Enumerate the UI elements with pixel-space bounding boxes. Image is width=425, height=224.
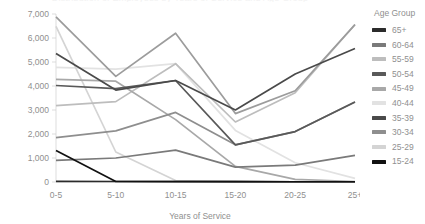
chart-canvas: 01,0002,0003,0004,0005,0006,0007,000 0-5… — [0, 0, 360, 224]
x-axis: 0-55-1010-1515-2020-2525+ — [50, 182, 360, 200]
y-tick-label: 5,000 — [28, 57, 50, 67]
line-chart: Distribution of Employees by Years of Se… — [0, 0, 425, 224]
legend-swatch-icon — [372, 130, 386, 134]
y-tick-label: 1,000 — [28, 153, 50, 163]
legend-item-65plus[interactable]: 65+ — [372, 23, 425, 38]
legend-item-label: 25-29 — [392, 143, 414, 152]
series-line-20-24 — [56, 17, 355, 114]
legend-item-50-54[interactable]: 50-54 — [372, 67, 425, 82]
legend-swatch-icon — [372, 145, 386, 149]
legend-item-label: 65+ — [392, 26, 406, 35]
series-lines — [56, 17, 355, 182]
x-tick-label: 20-25 — [284, 190, 306, 200]
legend-swatch-icon — [372, 57, 386, 61]
legend-item-45-49[interactable]: 45-49 — [372, 81, 425, 96]
x-tick-label: 10-15 — [165, 190, 187, 200]
y-tick-label: 7,000 — [28, 9, 50, 19]
legend-item-25-29[interactable]: 25-29 — [372, 140, 425, 155]
series-line-50-54 — [56, 80, 355, 144]
legend-item-label: 30-34 — [392, 128, 414, 137]
legend-swatch-icon — [372, 43, 386, 47]
y-axis: 01,0002,0003,0004,0005,0006,0007,000 — [28, 9, 56, 187]
legend-title: Age Group — [374, 8, 425, 18]
legend-item-label: 45-49 — [392, 84, 414, 93]
legend-item-label: 50-54 — [392, 70, 414, 79]
legend-item-15-24[interactable]: 15-24 — [372, 154, 425, 169]
x-axis-title: Years of Service — [169, 211, 231, 221]
legend-item-label: 40-44 — [392, 99, 414, 108]
x-tick-label: 25+ — [348, 190, 360, 200]
series-line-35-39 — [56, 49, 355, 110]
legend-swatch-icon — [372, 160, 386, 164]
legend-swatch-icon — [372, 101, 386, 105]
legend-swatch-icon — [372, 87, 386, 91]
legend-swatch-icon — [372, 28, 386, 32]
plot-area: 01,0002,0003,0004,0005,0006,0007,000 0-5… — [0, 0, 360, 224]
legend-swatch-icon — [372, 116, 386, 120]
x-tick-label: 0-5 — [50, 190, 63, 200]
x-tick-label: 5-10 — [107, 190, 124, 200]
legend-item-label: 55-59 — [392, 55, 414, 64]
y-tick-label: 6,000 — [28, 33, 50, 43]
legend-item-40-44[interactable]: 40-44 — [372, 96, 425, 111]
y-tick-label: 2,000 — [28, 129, 50, 139]
legend-item-label: 35-39 — [392, 114, 414, 123]
legend-item-60-64[interactable]: 60-64 — [372, 38, 425, 53]
x-tick-label: 15-20 — [225, 190, 247, 200]
legend-item-35-39[interactable]: 35-39 — [372, 111, 425, 126]
legend-item-label: 60-64 — [392, 41, 414, 50]
legend-item-label: 15-24 — [392, 157, 414, 166]
legend-swatch-icon — [372, 72, 386, 76]
legend: Age Group 65+60-6455-5950-5445-4940-4435… — [372, 8, 425, 169]
legend-item-30-34[interactable]: 30-34 — [372, 125, 425, 140]
series-line-60-64 — [56, 150, 355, 167]
legend-item-55-59[interactable]: 55-59 — [372, 52, 425, 67]
y-tick-label: 3,000 — [28, 105, 50, 115]
y-tick-label: 0 — [44, 177, 49, 187]
legend-item-list: 65+60-6455-5950-5445-4940-4435-3930-3425… — [372, 23, 425, 169]
y-tick-label: 4,000 — [28, 81, 50, 91]
